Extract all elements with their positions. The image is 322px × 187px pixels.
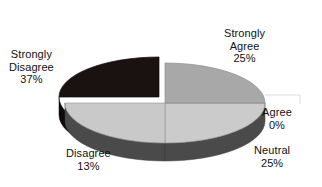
label-agree-line1: Agree (262, 106, 292, 119)
label-neutral-value: 25% (254, 157, 290, 170)
label-disagree-line1: Disagree (66, 147, 111, 160)
label-disagree: Disagree 13% (66, 147, 111, 172)
label-strongly-disagree: Strongly Disagree 37% (9, 48, 54, 86)
label-strongly-disagree-line2: Disagree (9, 61, 54, 74)
label-strongly-agree-line2: Agree (224, 40, 265, 53)
slice-top-strongly-disagree (59, 57, 159, 97)
label-strongly-agree-line1: Strongly (224, 27, 265, 40)
label-neutral: Neutral 25% (254, 144, 290, 169)
slice-top-strongly-agree (165, 63, 265, 103)
label-strongly-disagree-line1: Strongly (9, 48, 54, 61)
label-neutral-line1: Neutral (254, 144, 290, 157)
label-strongly-agree-value: 25% (224, 52, 265, 65)
label-strongly-disagree-value: 37% (9, 73, 54, 86)
label-strongly-agree: Strongly Agree 25% (224, 27, 265, 65)
pie-chart: Strongly Agree 25% Agree 0% Neutral 25% … (0, 0, 322, 187)
label-agree-value: 0% (262, 119, 292, 132)
leader-line-agree (265, 95, 300, 104)
label-agree: Agree 0% (262, 106, 292, 131)
label-disagree-value: 13% (66, 160, 111, 173)
